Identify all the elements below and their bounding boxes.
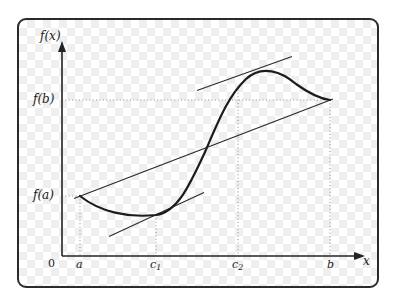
- x-tick-c1-subscript: 1: [156, 263, 161, 272]
- y-tick-label-fa: f(a): [33, 189, 54, 201]
- y-axis-label: f(x): [40, 30, 61, 42]
- figure-frame: [17, 18, 379, 288]
- x-axis-label: x: [363, 255, 370, 267]
- origin-label: 0: [48, 258, 55, 269]
- x-tick-label-a: a: [76, 259, 83, 270]
- x-tick-c2-subscript: 2: [238, 263, 243, 272]
- screenshot-root: f(x) f(b) f(a) 0 a c1 c2 b x: [0, 0, 399, 306]
- x-tick-label-c1: c1: [150, 259, 161, 272]
- x-tick-label-b: b: [327, 259, 334, 270]
- y-tick-label-fb: f(b): [33, 93, 55, 105]
- x-tick-label-c2: c2: [232, 259, 243, 272]
